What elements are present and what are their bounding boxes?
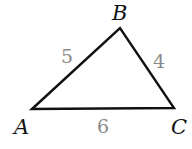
side-label-bc: 4 <box>153 50 165 72</box>
side-label-ac: 6 <box>97 115 109 137</box>
vertex-label-a: A <box>12 115 29 139</box>
triangle-diagram: A B C 5 4 6 <box>0 0 192 149</box>
side-label-ab: 5 <box>61 45 73 67</box>
vertex-label-b: B <box>111 1 127 25</box>
vertex-label-c: C <box>171 115 187 139</box>
